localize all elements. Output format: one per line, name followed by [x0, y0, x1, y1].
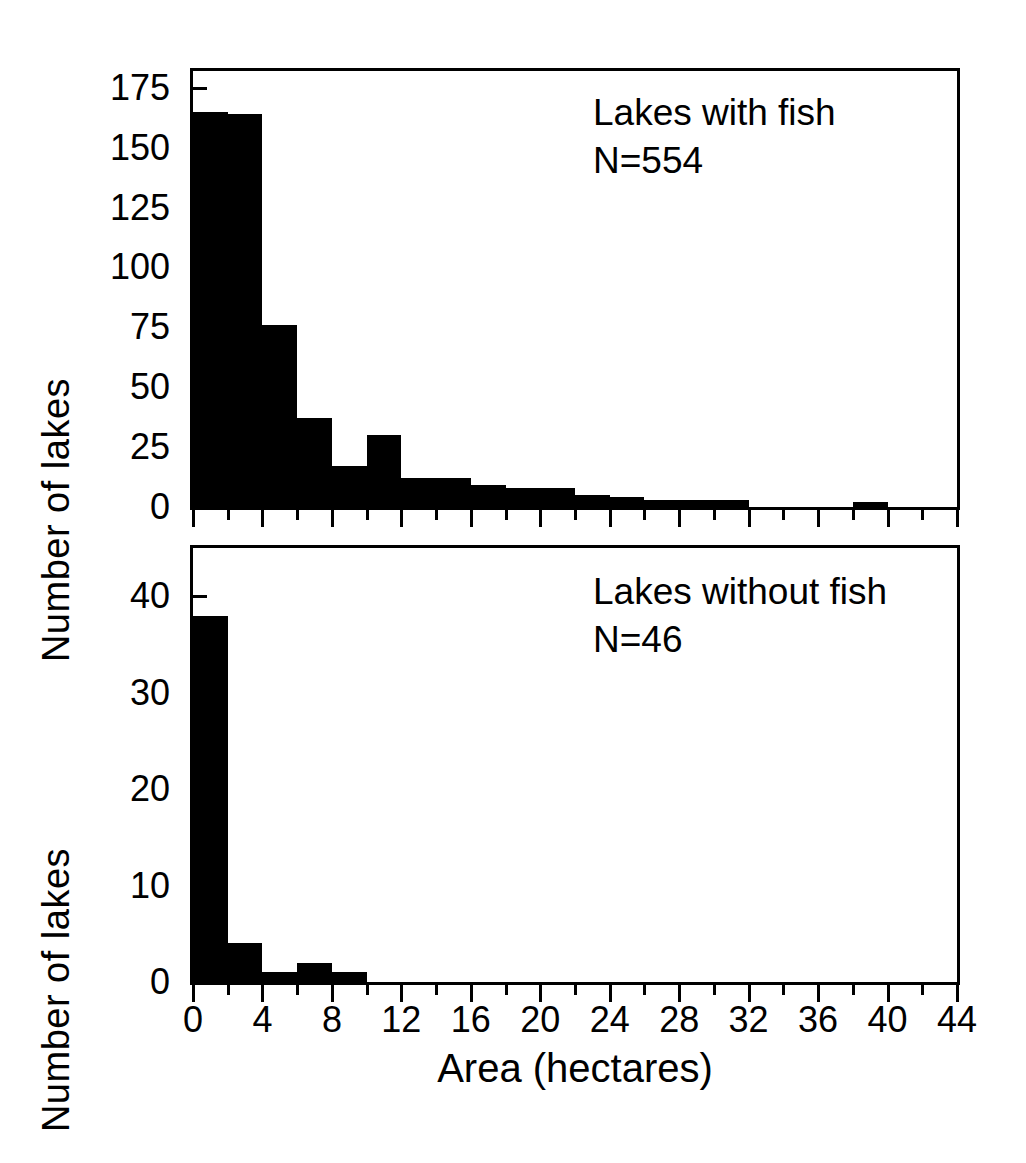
y-axis-tick	[193, 981, 207, 984]
y-axis-tick	[193, 266, 207, 269]
x-axis-tick-major	[956, 507, 959, 527]
histogram-bar	[610, 497, 645, 507]
y-axis-tick	[193, 885, 207, 888]
y-axis-tick-label: 20	[20, 771, 170, 807]
annotation-top-count: N=554	[593, 137, 836, 185]
histogram-bar	[262, 972, 297, 982]
y-axis-tick-label: 0	[20, 964, 170, 1000]
histogram-bar	[297, 418, 332, 507]
y-axis-tick-label: 175	[20, 70, 170, 106]
histogram-bar	[714, 500, 749, 507]
y-axis-tick-label: 100	[20, 249, 170, 285]
y-axis-tick-label: 125	[20, 190, 170, 226]
y-axis-tick	[193, 692, 207, 695]
x-axis-title: Area (hectares)	[190, 1046, 960, 1091]
x-axis-tick-major	[817, 507, 820, 527]
x-axis-tick-label: 8	[292, 1002, 372, 1038]
x-axis-tick-major	[748, 507, 751, 527]
y-axis-tick	[193, 506, 207, 509]
histogram-bar	[332, 466, 367, 507]
x-axis-tick-minor	[782, 507, 785, 520]
histogram-bar	[193, 616, 228, 982]
x-axis-tick-minor	[227, 982, 230, 995]
x-axis-tick-minor	[574, 982, 577, 995]
x-axis-tick-label: 40	[848, 1002, 928, 1038]
x-axis-tick-label: 12	[361, 1002, 441, 1038]
x-axis-tick-label: 16	[431, 1002, 511, 1038]
x-axis-tick-minor	[505, 982, 508, 995]
x-axis-tick-major	[887, 507, 890, 527]
x-axis-tick-major	[678, 507, 681, 527]
x-axis-tick-minor	[921, 982, 924, 995]
y-axis-tick-label: 30	[20, 675, 170, 711]
x-axis-tick-minor	[713, 982, 716, 995]
x-axis-tick-major	[539, 507, 542, 527]
x-axis-tick-minor	[713, 507, 716, 520]
panel-lakes-with-fish: Lakes with fish N=554	[190, 68, 960, 510]
x-axis-tick-major	[609, 507, 612, 527]
histogram-bar	[471, 485, 506, 507]
y-axis-tick-label: 40	[20, 578, 170, 614]
x-axis-tick-label: 32	[709, 1002, 789, 1038]
x-axis-tick-label: 44	[917, 1002, 997, 1038]
histogram-bar	[228, 943, 263, 982]
annotation-bottom-count: N=46	[593, 616, 887, 664]
x-axis-tick-major	[331, 507, 334, 527]
x-axis-tick-label: 36	[778, 1002, 858, 1038]
y-axis-tick-label: 0	[20, 489, 170, 525]
x-axis-tick-minor	[921, 507, 924, 520]
histogram-bar	[297, 963, 332, 982]
histogram-bar	[506, 488, 541, 507]
x-axis-tick-major	[400, 507, 403, 527]
x-axis-tick-minor	[782, 982, 785, 995]
histogram-figure: Number of lakes Number of lakes Lakes wi…	[0, 0, 1026, 1163]
histogram-bar	[540, 488, 575, 507]
y-axis-tick	[193, 386, 207, 389]
x-axis-tick-minor	[435, 982, 438, 995]
x-axis-tick-label: 20	[500, 1002, 580, 1038]
histogram-bar	[853, 502, 888, 507]
y-axis-tick	[193, 788, 207, 791]
x-axis-tick-label: 0	[153, 1002, 233, 1038]
annotation-top: Lakes with fish N=554	[593, 89, 836, 185]
histogram-bar	[401, 478, 436, 507]
x-axis-tick-minor	[852, 507, 855, 520]
x-axis-tick-minor	[366, 982, 369, 995]
histogram-bar	[644, 500, 679, 507]
panel-lakes-without-fish: Lakes without fish N=46	[190, 545, 960, 985]
x-axis-tick-label: 28	[639, 1002, 719, 1038]
y-axis-tick	[193, 147, 207, 150]
histogram-bar	[262, 325, 297, 507]
x-axis-tick-minor	[643, 507, 646, 520]
annotation-top-title: Lakes with fish	[593, 89, 836, 137]
y-axis-tick-label: 25	[20, 429, 170, 465]
x-axis-tick-minor	[643, 982, 646, 995]
histogram-bar	[332, 972, 367, 982]
x-axis-tick-label: 4	[222, 1002, 302, 1038]
x-axis-tick-minor	[435, 507, 438, 520]
y-axis-tick	[193, 207, 207, 210]
x-axis-tick-minor	[296, 507, 299, 520]
x-axis-tick-minor	[852, 982, 855, 995]
x-axis-tick-major	[470, 507, 473, 527]
histogram-bar	[228, 114, 263, 507]
x-axis-tick-minor	[227, 507, 230, 520]
plot-area-top	[193, 71, 957, 507]
x-axis-tick-minor	[505, 507, 508, 520]
x-axis-tick-minor	[296, 982, 299, 995]
annotation-bottom: Lakes without fish N=46	[593, 568, 887, 664]
y-axis-tick	[193, 446, 207, 449]
x-axis-tick-minor	[574, 507, 577, 520]
annotation-bottom-title: Lakes without fish	[593, 568, 887, 616]
histogram-bar	[436, 478, 471, 507]
y-axis-tick-label: 75	[20, 309, 170, 345]
y-axis-title-bottom: Number of lakes	[35, 690, 78, 1163]
x-axis-tick-major	[261, 507, 264, 527]
y-axis-tick-label: 10	[20, 868, 170, 904]
y-axis-tick	[193, 87, 207, 90]
histogram-bar	[679, 500, 714, 507]
y-axis-tick	[193, 595, 207, 598]
histogram-bar	[367, 435, 402, 507]
y-axis-tick	[193, 326, 207, 329]
histogram-bar	[575, 495, 610, 507]
